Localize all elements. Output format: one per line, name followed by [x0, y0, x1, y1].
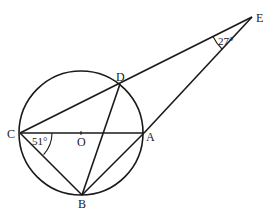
label-C: C: [7, 127, 15, 141]
angle-label-C: 51°: [32, 135, 47, 147]
label-E: E: [256, 11, 263, 25]
label-D: D: [116, 70, 125, 84]
label-A: A: [146, 130, 155, 144]
label-B: B: [78, 197, 86, 211]
label-O: O: [77, 135, 86, 149]
segment-AE: [144, 17, 252, 133]
geometry-diagram: C A O D B E 51° 27°: [0, 0, 272, 216]
segment-BD: [82, 84, 120, 195]
angle-label-E: 27°: [218, 35, 233, 47]
